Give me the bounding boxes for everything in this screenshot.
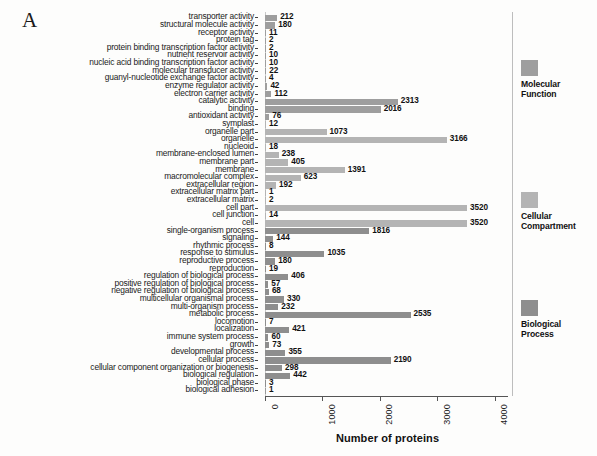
category-tick	[255, 276, 258, 277]
bar	[265, 220, 467, 226]
x-axis-tick-label: 1000	[327, 404, 337, 425]
bar-value-label: 192	[279, 180, 292, 189]
category-tick	[255, 55, 258, 56]
bar-value-label: 1035	[327, 248, 345, 257]
legend-swatch	[521, 300, 538, 316]
x-axis-tick-label: 4000	[499, 404, 509, 425]
category-tick	[255, 124, 258, 125]
bar-value-label: 12	[269, 119, 278, 128]
bar-value-label: 73	[272, 340, 281, 349]
category-tick	[255, 200, 258, 201]
bar	[265, 99, 398, 105]
bar	[265, 350, 285, 356]
category-tick	[255, 261, 258, 262]
category-tick	[255, 314, 258, 315]
category-tick	[255, 25, 258, 26]
category-tick	[255, 86, 258, 87]
bar-value-label: 1073	[330, 127, 348, 136]
bar	[265, 45, 266, 51]
legend-swatch	[521, 60, 538, 76]
bar	[265, 159, 288, 165]
bar	[265, 289, 269, 295]
bar-value-label: 2535	[414, 309, 432, 318]
x-axis-tick-label: 2000	[384, 404, 394, 425]
bar	[265, 388, 266, 394]
bar-value-label: 112	[274, 89, 287, 98]
bar-value-label: 355	[288, 347, 301, 356]
bar	[265, 357, 391, 363]
bar-value-label: 19	[269, 264, 278, 273]
bar-value-label: 1816	[372, 226, 390, 235]
legend-label: Biological Process	[521, 319, 595, 339]
bar-value-label: 180	[278, 20, 291, 29]
category-tick	[255, 269, 258, 270]
category-tick	[255, 101, 258, 102]
x-axis-tick	[265, 397, 266, 401]
category-tick	[255, 185, 258, 186]
bar-value-label: 421	[292, 324, 305, 333]
bar	[265, 144, 266, 150]
category-tick	[255, 109, 258, 110]
bar	[265, 205, 467, 211]
category-tick	[255, 139, 258, 140]
category-tick	[255, 223, 258, 224]
bar-value-label: 144	[276, 233, 289, 242]
category-tick	[255, 208, 258, 209]
category-tick	[255, 291, 258, 292]
category-tick	[255, 253, 258, 254]
bar-value-label: 1	[269, 385, 273, 394]
bar-value-label: 3520	[470, 203, 488, 212]
bar	[265, 76, 266, 82]
bar-value-label: 405	[291, 157, 304, 166]
legend-swatch	[521, 192, 538, 208]
category-tick	[255, 17, 258, 18]
legend-entry: Cellular Compartment	[521, 192, 595, 231]
bar-value-label: 180	[278, 256, 291, 265]
bar	[265, 15, 277, 21]
category-tick	[255, 337, 258, 338]
category-tick	[255, 284, 258, 285]
category-tick	[255, 170, 258, 171]
x-axis-tick	[322, 397, 323, 401]
category-tick	[255, 162, 258, 163]
category-tick	[255, 177, 258, 178]
bar	[265, 91, 271, 97]
x-axis-tick	[380, 397, 381, 401]
category-tick	[255, 116, 258, 117]
bar	[265, 30, 266, 36]
category-tick	[255, 147, 258, 148]
category-tick	[255, 238, 258, 239]
bar	[265, 213, 266, 219]
category-tick	[255, 40, 258, 41]
bar	[265, 38, 266, 44]
category-tick	[255, 368, 258, 369]
category-tick	[255, 345, 258, 346]
bar	[265, 190, 266, 196]
bar-value-label: 7	[269, 317, 273, 326]
legend-divider	[512, 12, 513, 396]
bar-value-label: 14	[269, 210, 278, 219]
category-tick	[255, 78, 258, 79]
category-tick	[255, 231, 258, 232]
legend-label: Molecular Function	[521, 79, 595, 99]
x-axis-tick-label: 0	[270, 404, 280, 409]
category-tick	[255, 375, 258, 376]
bar-value-label: 3166	[450, 134, 468, 143]
go-annotation-bar-chart-figure: A transporter activitystructural molecul…	[0, 0, 597, 456]
legend-entry: Biological Process	[521, 300, 595, 339]
category-tick	[255, 360, 258, 361]
bar	[265, 197, 266, 203]
category-tick	[255, 33, 258, 34]
category-tick	[255, 299, 258, 300]
x-axis-line	[265, 396, 508, 397]
category-tick	[255, 48, 258, 49]
bar	[265, 152, 279, 158]
bar	[265, 83, 267, 89]
category-label: biological adhesion	[186, 385, 254, 393]
x-axis-tick-label: 3000	[442, 404, 452, 425]
legend-entry: Molecular Function	[521, 60, 595, 99]
bar	[265, 281, 268, 287]
bar	[265, 106, 381, 112]
bar-value-label: 3520	[470, 218, 488, 227]
x-axis-tick	[437, 397, 438, 401]
